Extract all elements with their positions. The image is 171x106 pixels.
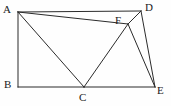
segment-FE: [128, 24, 155, 87]
segment-FD: [128, 11, 141, 24]
segment-AF: [18, 12, 128, 24]
segments-group: [18, 11, 155, 87]
vertex-label-b: B: [4, 79, 11, 90]
segment-DE: [141, 11, 155, 87]
segment-CF: [84, 24, 128, 87]
vertex-label-f: F: [115, 15, 121, 26]
segment-AD: [18, 11, 141, 12]
vertex-label-e: E: [157, 85, 164, 96]
vertex-label-c: C: [79, 92, 86, 103]
geometry-figure: ABCDEF: [0, 0, 171, 106]
vertex-label-d: D: [145, 2, 153, 13]
segment-AC: [18, 12, 84, 87]
vertex-label-a: A: [3, 4, 11, 15]
